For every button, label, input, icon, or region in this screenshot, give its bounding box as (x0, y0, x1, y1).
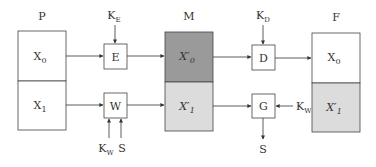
block-f: F X0 X′1 (312, 11, 360, 132)
operator-d-label: D (259, 52, 268, 65)
output-s-label: S (259, 143, 267, 156)
operator-g: G KW S (252, 94, 312, 156)
operator-e-label: E (111, 51, 119, 64)
operator-g-label: G (259, 100, 268, 113)
encryption-watermark-diagram: P X0 X1 KE E W KW S M X′0 X′1 KD (0, 0, 376, 167)
block-m: M X′0 X′1 (165, 10, 213, 131)
operator-e: KE E (104, 9, 127, 69)
key-kd-label: KD (256, 9, 270, 24)
key-kw-label: KW (98, 142, 114, 157)
block-f-title: F (332, 11, 340, 24)
input-s-label: S (118, 142, 126, 155)
key-kw-g-label: KW (296, 100, 312, 115)
block-p-title: P (38, 10, 46, 23)
operator-d: KD D (252, 9, 275, 70)
operator-w-label: W (110, 100, 122, 113)
block-m-title: M (183, 10, 194, 23)
operator-w: W KW S (98, 93, 127, 157)
key-ke-label: KE (107, 9, 120, 24)
block-p: P X0 X1 (18, 10, 66, 130)
